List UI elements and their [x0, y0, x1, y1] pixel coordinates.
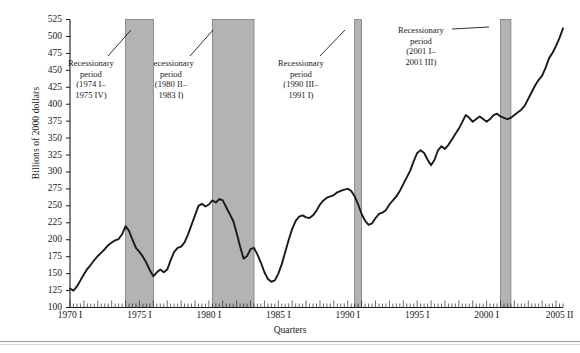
annotation-leader-recession-2001 — [452, 27, 489, 29]
annotation-leader-recession-1980 — [190, 30, 213, 56]
recession-band-0 — [126, 20, 154, 308]
chart-figure: Billions of 2000 dollars Quarters 525500… — [0, 0, 580, 353]
recession-band-3 — [501, 20, 511, 308]
figure-bottom-rule — [0, 341, 580, 342]
recession-band-1 — [212, 20, 254, 308]
plot-area — [0, 0, 580, 353]
recession-band-2 — [355, 20, 362, 308]
annotation-leader-recession-1990 — [320, 30, 345, 56]
figure-bottom-rule-shadow — [0, 344, 580, 345]
